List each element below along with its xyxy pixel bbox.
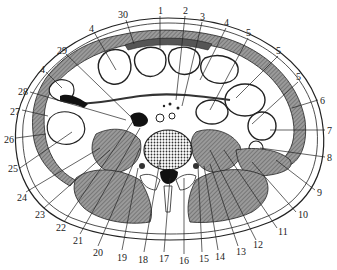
label-18: 18 <box>138 255 148 265</box>
small-vessel-c <box>163 105 165 107</box>
jejunum-loop-1 <box>98 50 131 85</box>
jejunum-loop-4 <box>201 56 238 84</box>
small-vessel-a <box>169 103 172 106</box>
label-5c: 5 <box>296 72 301 82</box>
label-1: 1 <box>158 6 163 16</box>
label-30: 30 <box>118 10 128 20</box>
label-26: 26 <box>4 135 14 145</box>
label-16: 16 <box>179 256 189 266</box>
label-5b: 5 <box>276 46 281 56</box>
label-28: 28 <box>18 87 28 97</box>
sma <box>169 113 175 119</box>
label-25: 25 <box>8 164 18 174</box>
small-vessel-b <box>177 107 180 110</box>
label-4a: 4 <box>224 18 229 28</box>
label-3: 3 <box>200 12 205 22</box>
label-27: 27 <box>10 107 20 117</box>
label-22: 22 <box>56 223 66 233</box>
label-6: 6 <box>320 96 325 106</box>
jejunum-loop-2 <box>135 47 166 76</box>
label-15: 15 <box>199 254 209 264</box>
label-4c: 4 <box>89 24 94 34</box>
label-12: 12 <box>253 240 263 250</box>
label-23: 23 <box>35 210 45 220</box>
aorta <box>156 114 164 122</box>
label-10: 10 <box>298 210 308 220</box>
label-11: 11 <box>278 227 288 237</box>
vertebral-body <box>144 130 192 170</box>
bowel-loop-right-a <box>196 100 228 124</box>
label-24: 24 <box>17 193 27 203</box>
label-7: 7 <box>327 126 332 136</box>
label-8: 8 <box>327 153 332 163</box>
label-2: 2 <box>183 6 188 16</box>
label-9: 9 <box>317 188 322 198</box>
cross-section-diagram: 1 2 3 4 5 5 5 6 7 8 9 10 11 12 13 14 15 … <box>0 0 337 270</box>
ascending-colon <box>47 112 84 145</box>
label-4b: 4 <box>40 65 45 75</box>
label-29: 29 <box>57 46 67 56</box>
nerve-root-left <box>139 163 145 169</box>
label-19: 19 <box>117 253 127 263</box>
bowel-loop-right-c <box>248 112 276 140</box>
label-20: 20 <box>93 248 103 258</box>
label-13: 13 <box>236 247 246 257</box>
label-21: 21 <box>73 236 83 246</box>
label-17: 17 <box>159 254 169 264</box>
label-5a: 5 <box>246 28 251 38</box>
label-14: 14 <box>215 252 225 262</box>
